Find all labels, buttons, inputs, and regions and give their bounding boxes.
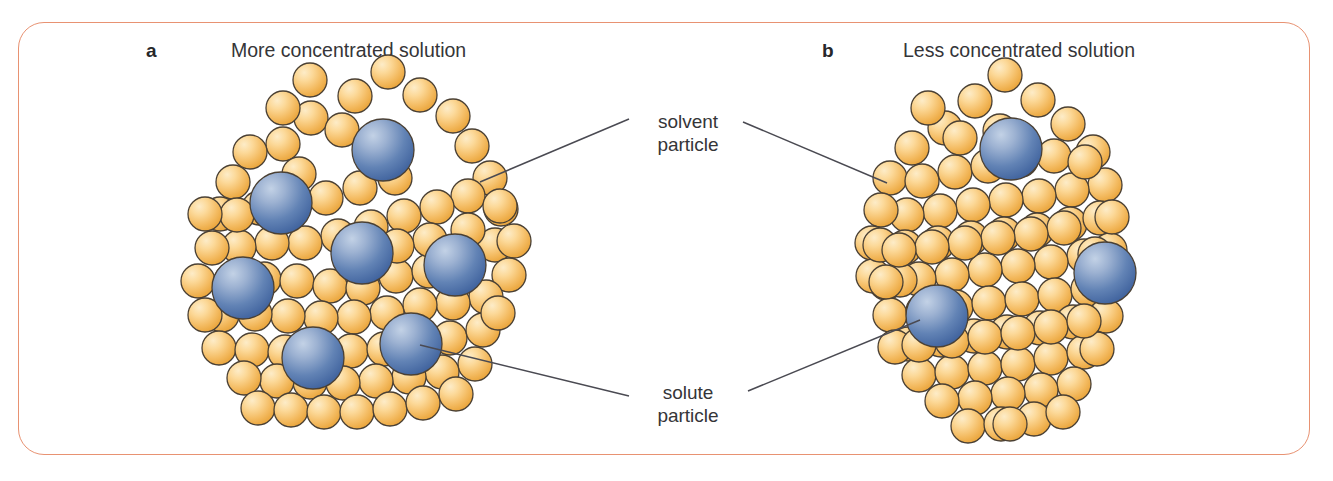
callout-solute-particle: solute particle (632, 381, 744, 427)
callout-solute-line2: particle (632, 404, 744, 427)
panel-b-title: Less concentrated solution (903, 39, 1135, 62)
callout-solvent-line1: solvent (632, 110, 744, 133)
panel-a-title: More concentrated solution (231, 39, 466, 62)
callout-solvent-particle: solvent particle (632, 110, 744, 156)
figure-root: a More concentrated solution b Less conc… (0, 0, 1333, 481)
panel-b-letter: b (822, 40, 834, 62)
callout-solvent-line2: particle (632, 133, 744, 156)
panel-a-letter: a (146, 40, 157, 62)
callout-solute-line1: solute (632, 381, 744, 404)
